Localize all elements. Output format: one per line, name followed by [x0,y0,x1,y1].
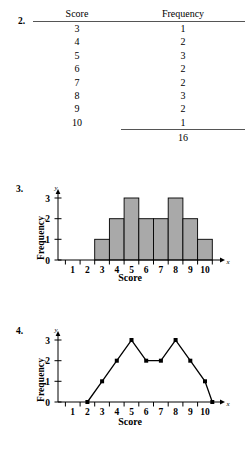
problem-4-number: 4. [16,326,23,336]
frequency-table: Score Frequency 3 1 4 2 5 3 6 [33,8,245,145]
marker-score-6 [144,359,148,363]
column-header-frequency: Frequency [121,8,245,22]
x-tick-label-8: 8 [173,407,178,417]
y-tick-label-1: 1 [45,377,50,387]
frequency-polygon-line [87,340,212,402]
marker-score-10 [203,379,207,383]
x-axis-arrow-icon [220,258,225,263]
table-row: 8 3 [33,89,245,102]
table-row: 10 1 [33,116,245,130]
cell-score: 6 [33,62,121,75]
table-row: 5 3 [33,49,245,62]
cell-frequency: 2 [121,76,245,89]
table-row: 6 2 [33,62,245,75]
cell-frequency: 2 [121,102,245,115]
x-tick-label-9: 9 [188,407,193,417]
worksheet-page: 2. Score Frequency 3 1 4 2 5 3 [0,0,251,452]
bar-score-10 [198,239,213,260]
cell-score: 9 [33,102,121,115]
line-chart-x-axis-label: Score [55,416,205,427]
x-tick-label-1: 1 [70,407,75,417]
cell-score: 7 [33,76,121,89]
cell-frequency: 2 [121,62,245,75]
y-tick-label-3: 3 [45,336,50,346]
bar-score-3 [95,239,110,260]
bar-score-6 [139,219,154,260]
column-header-score: Score [33,8,121,22]
table-row: 9 2 [33,102,245,115]
marker-score-8 [174,338,178,342]
x-tick-label-3: 3 [100,407,105,417]
line-chart-y-axis-label: Frequency [36,358,46,402]
problem-3-number: 3. [16,184,23,194]
table-row: 3 1 [33,22,245,36]
total-spacer [33,130,121,145]
x-tick-label-5: 5 [129,407,134,417]
histogram-y-axis-label: Frequency [36,216,46,260]
cell-frequency: 3 [121,89,245,102]
table-header-row: Score Frequency [33,8,245,22]
y-tick-label-2: 2 [45,214,50,224]
y-tick-label-0: 0 [45,256,50,266]
cell-score: 3 [33,22,121,36]
cell-frequency: 2 [121,35,245,48]
y-tick-label-0: 0 [45,398,50,408]
x-axis-symbol: x [225,258,230,266]
x-axis-symbol: x [225,400,230,408]
table-row: 4 2 [33,35,245,48]
x-tick-label-2: 2 [85,407,90,417]
bar-score-5 [124,198,139,260]
marker-score-3 [100,379,104,383]
marker-score-5 [130,338,134,342]
histogram-x-axis-label: Score [55,272,205,283]
x-tick-label-10: 10 [200,407,210,417]
y-tick-label-1: 1 [45,235,50,245]
marker-score-7 [159,359,163,363]
bar-score-8 [168,198,183,260]
x-tick-label-4: 4 [114,407,119,417]
cell-score: 8 [33,89,121,102]
problem-3-histogram-block: 3. Frequency Score [0,180,251,290]
cell-score: 4 [33,35,121,48]
x-tick-label-7: 7 [159,407,164,417]
bar-score-4 [109,219,124,260]
table-total-row: 16 [33,130,245,145]
table-row: 7 2 [33,76,245,89]
x-axis-arrow-icon [220,400,225,405]
marker-score-9 [188,359,192,363]
y-tick-label-3: 3 [45,194,50,204]
x-tick-label-6: 6 [144,407,149,417]
problem-2-number: 2. [18,16,25,26]
bar-score-7 [154,219,169,260]
bar-score-9 [183,219,198,260]
cell-score: 10 [33,116,121,130]
cell-score: 5 [33,49,121,62]
cell-frequency: 1 [121,22,245,36]
frequency-polygon-markers [85,338,214,404]
cell-frequency: 1 [121,116,245,130]
y-tick-label-2: 2 [45,356,50,366]
marker-score-4 [115,359,119,363]
problem-4-line-chart-block: 4. Frequency Score [0,322,251,434]
cell-frequency: 3 [121,49,245,62]
total-frequency: 16 [121,130,245,145]
histogram-bars [95,198,213,260]
